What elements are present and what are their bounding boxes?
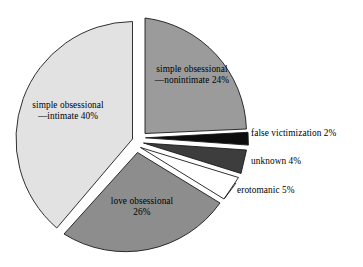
pie-label-line-1: erotomanic 5% <box>237 185 295 195</box>
pie-chart-figure: simple obsessional —intimate 40% simple … <box>0 0 363 267</box>
pie-label-love-obsessional: love obsessional 26% <box>86 196 198 218</box>
pie-label-simple-obsessional-intimate: simple obsessional —intimate 40% <box>14 100 122 122</box>
pie-label-line-1: love obsessional <box>111 196 173 206</box>
pie-label-line-2: —nonintimate 24% <box>155 75 229 85</box>
pie-label-line-1: simple obsessional <box>156 64 227 74</box>
pie-label-false-victimization: false victimization 2% <box>251 128 336 139</box>
pie-label-erotomanic: erotomanic 5% <box>237 185 295 196</box>
pie-label-line-1: simple obsessional <box>32 100 103 110</box>
pie-label-line-1: unknown 4% <box>251 156 301 166</box>
pie-label-simple-obsessional-nonintimate: simple obsessional —nonintimate 24% <box>137 64 247 86</box>
pie-label-line-1: false victimization 2% <box>251 128 336 138</box>
pie-slice-false-victimization[interactable] <box>146 132 249 145</box>
pie-label-line-2: —intimate 40% <box>38 111 98 121</box>
pie-label-line-2: 26% <box>133 207 150 217</box>
pie-label-unknown: unknown 4% <box>251 156 301 167</box>
